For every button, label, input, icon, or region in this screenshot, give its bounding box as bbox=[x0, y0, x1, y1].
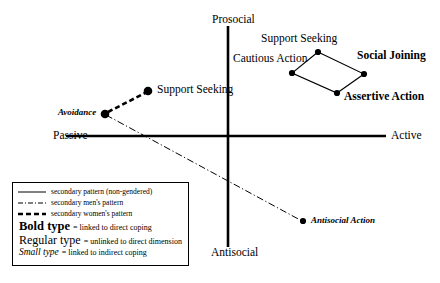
legend-row-small-type: Small type = linked to indirect coping bbox=[17, 247, 184, 261]
axis-label-antisocial: Antisocial bbox=[211, 247, 258, 259]
legend-sample-bold: Bold type bbox=[19, 219, 70, 234]
legend-sample-regular: Regular type bbox=[19, 233, 81, 248]
legend-row-mens: secondary men's pattern bbox=[17, 197, 184, 208]
label-support-seeking-passive: Support Seeking bbox=[157, 84, 233, 96]
legend-label-womens: secondary women's pattern bbox=[47, 209, 132, 218]
label-antisocial-action: Antisocial Action bbox=[311, 216, 375, 225]
label-cautious-action: Cautious Action bbox=[233, 53, 307, 65]
point-antisocial-action bbox=[300, 218, 306, 224]
legend-row-nongendered: secondary pattern (non-gendered) bbox=[17, 186, 184, 197]
point-cautious-action bbox=[289, 70, 295, 76]
label-support-seeking-prosocial: Support Seeking bbox=[261, 33, 337, 45]
point-support-seeking-passive bbox=[144, 87, 153, 96]
point-avoidance bbox=[101, 110, 110, 119]
legend-label-nongendered: secondary pattern (non-gendered) bbox=[47, 187, 152, 196]
legend-label-mens: secondary men's pattern bbox=[47, 198, 123, 207]
solid-line-key-icon bbox=[17, 187, 47, 197]
womens-pattern-line bbox=[108, 93, 145, 112]
coping-strategies-quadrant-figure: Prosocial Antisocial Passive Active Supp… bbox=[0, 0, 440, 283]
legend-row-regular-type: Regular type = unlinked to direct dimens… bbox=[17, 233, 184, 247]
legend-sample-small: Small type bbox=[19, 247, 59, 257]
legend-row-bold-type: Bold type = linked to direct coping bbox=[17, 219, 184, 233]
legend-desc-regular: = unlinked to direct dimension bbox=[81, 237, 182, 246]
point-social-joining bbox=[361, 71, 367, 77]
legend-desc-small: = linked to indirect coping bbox=[59, 248, 147, 257]
label-social-joining: Social Joining bbox=[357, 50, 426, 62]
axis-label-prosocial: Prosocial bbox=[212, 14, 255, 26]
legend-box: secondary pattern (non-gendered) seconda… bbox=[12, 182, 189, 266]
legend-row-womens: secondary women's pattern bbox=[17, 208, 184, 219]
axis-label-passive: Passive bbox=[53, 130, 88, 142]
point-support-seeking-prosocial bbox=[315, 49, 321, 55]
label-assertive-action: Assertive Action bbox=[344, 91, 424, 103]
point-assertive-action bbox=[334, 90, 340, 96]
dash-dot-line-key-icon bbox=[17, 198, 47, 208]
axis-label-active: Active bbox=[391, 130, 422, 142]
legend-desc-bold: = linked to direct coping bbox=[70, 223, 152, 232]
dashed-line-key-icon bbox=[17, 209, 47, 219]
label-avoidance: Avoidance bbox=[58, 108, 96, 117]
